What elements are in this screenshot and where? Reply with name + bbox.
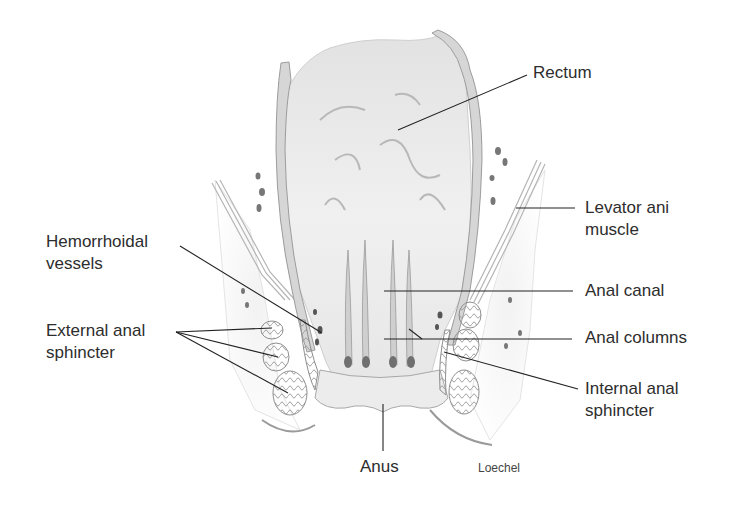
- label-anal-columns: Anal columns: [585, 327, 687, 349]
- label-external-anal-sphincter: External anal sphincter: [46, 320, 145, 364]
- label-text: Levator ani: [585, 197, 669, 219]
- label-anus: Anus: [360, 456, 399, 478]
- label-rectum: Rectum: [533, 62, 592, 84]
- label-text: vessels: [46, 253, 148, 275]
- label-text: Anal columns: [585, 327, 687, 349]
- label-anal-canal: Anal canal: [585, 280, 664, 302]
- label-text: muscle: [585, 219, 669, 241]
- label-text: Anal canal: [585, 280, 664, 302]
- anatomy-figure: Rectum Levator ani muscle Hemorrhoidal v…: [0, 0, 747, 507]
- artist-signature: Loechel: [478, 461, 520, 475]
- label-text: Rectum: [533, 62, 592, 84]
- label-text: Hemorrhoidal: [46, 231, 148, 253]
- label-text: Internal anal: [585, 378, 679, 400]
- label-hemorrhoidal-vessels: Hemorrhoidal vessels: [46, 231, 148, 275]
- label-text: sphincter: [585, 400, 679, 422]
- label-text: sphincter: [46, 342, 145, 364]
- label-text: Anus: [360, 456, 399, 478]
- label-internal-anal-sphincter: Internal anal sphincter: [585, 378, 679, 422]
- label-levator-ani: Levator ani muscle: [585, 197, 669, 241]
- label-text: External anal: [46, 320, 145, 342]
